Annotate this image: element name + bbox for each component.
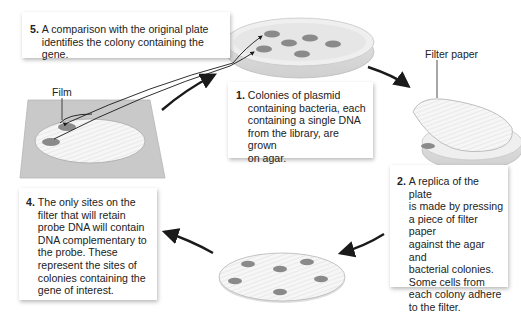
step-text: A replica of the plate is made by pressi… xyxy=(409,175,504,312)
colony xyxy=(228,278,242,284)
step-text: A comparison with the original plate ide… xyxy=(42,23,224,61)
step-2-box: 2. A replica of the plate is made by pre… xyxy=(390,165,508,287)
colony xyxy=(314,276,328,282)
step-1-box: 1. Colonies of plasmid containing bacter… xyxy=(228,82,373,158)
filter-paper-plate xyxy=(413,60,521,170)
colony xyxy=(256,45,272,52)
colony xyxy=(300,259,314,265)
replica-filter xyxy=(219,253,345,303)
colony xyxy=(421,143,435,149)
colony xyxy=(264,30,280,37)
colony xyxy=(294,50,310,57)
arrow-filter-to-replica xyxy=(341,234,384,253)
step-number: 2. xyxy=(397,175,406,312)
arrow-replica-to-step4 xyxy=(165,232,213,253)
colony xyxy=(325,40,341,47)
colony xyxy=(273,289,287,295)
film-spot xyxy=(42,138,60,146)
colony xyxy=(281,39,297,46)
arrow-plate-to-filter xyxy=(368,67,408,86)
colony-hybridization-diagram: Film Filter paper 5. A comparison with t… xyxy=(0,0,521,312)
step-5-box: 5. A comparison with the original plate … xyxy=(22,12,230,58)
step-text: Colonies of plasmid containing bacteria,… xyxy=(248,89,368,165)
colony xyxy=(241,261,255,267)
step-text: The only sites on the filter that will r… xyxy=(38,196,147,297)
original-plate xyxy=(226,18,374,78)
step-number: 1. xyxy=(236,89,245,165)
step-4-box: 4. The only sites on the filter that wil… xyxy=(19,188,157,300)
colony xyxy=(273,266,287,272)
filter-paper-label: Filter paper xyxy=(425,48,478,60)
film-sheet xyxy=(20,98,165,178)
film-label: Film xyxy=(52,86,72,98)
colony xyxy=(302,34,318,41)
step-number: 5. xyxy=(30,23,39,61)
step-number: 4. xyxy=(26,196,35,297)
